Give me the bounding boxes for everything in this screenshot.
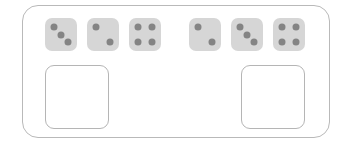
die-left-3[interactable]	[129, 18, 161, 51]
pip-icon	[58, 31, 65, 38]
pip-icon	[278, 38, 285, 45]
pip-icon	[194, 24, 201, 31]
pip-icon	[134, 38, 141, 45]
pip-icon	[293, 38, 300, 45]
pip-icon	[293, 24, 300, 31]
dice-comparison-panel	[22, 5, 330, 138]
answer-slot-row	[45, 65, 309, 129]
pip-icon	[92, 24, 99, 31]
left-dice-group	[45, 18, 161, 51]
answer-slot-left[interactable]	[45, 65, 109, 129]
pip-icon	[65, 38, 72, 45]
right-dice-group	[189, 18, 305, 51]
pip-icon	[278, 24, 285, 31]
die-left-1[interactable]	[45, 18, 77, 51]
die-right-2[interactable]	[231, 18, 263, 51]
pip-icon	[107, 38, 114, 45]
die-right-1[interactable]	[189, 18, 221, 51]
pip-icon	[236, 24, 243, 31]
die-left-2[interactable]	[87, 18, 119, 51]
die-right-3[interactable]	[273, 18, 305, 51]
pip-icon	[50, 24, 57, 31]
pip-icon	[149, 38, 156, 45]
pip-icon	[134, 24, 141, 31]
pip-icon	[251, 38, 258, 45]
screenshot-stage	[0, 0, 342, 145]
pip-icon	[209, 38, 216, 45]
pip-icon	[244, 31, 251, 38]
answer-slot-right[interactable]	[241, 65, 305, 129]
pip-icon	[149, 24, 156, 31]
